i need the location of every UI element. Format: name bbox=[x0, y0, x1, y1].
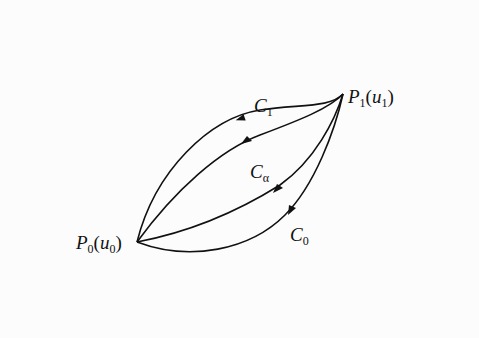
curve-c1 bbox=[137, 94, 343, 242]
curve-calpha bbox=[137, 94, 343, 242]
arrow-c0-icon bbox=[288, 205, 296, 215]
label-c1: C1 bbox=[254, 96, 273, 118]
label-c0: C0 bbox=[290, 225, 309, 247]
label-p0: P0(u0) bbox=[76, 233, 122, 255]
curve-middle bbox=[137, 94, 343, 242]
arrow-calpha-icon bbox=[241, 136, 252, 144]
homotopy-diagram: C1 Cα C0 P1(u1) P0(u0) bbox=[0, 0, 479, 338]
label-calpha: Cα bbox=[250, 162, 269, 184]
label-p1: P1(u1) bbox=[348, 87, 394, 109]
curves-canvas bbox=[0, 0, 479, 338]
